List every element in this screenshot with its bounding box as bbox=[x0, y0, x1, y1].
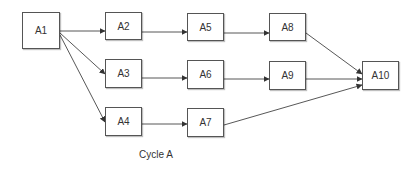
node-a1: A1 bbox=[22, 12, 60, 49]
edge-a1-a3 bbox=[60, 33, 105, 74]
node-a9: A9 bbox=[269, 61, 306, 90]
node-a3: A3 bbox=[105, 59, 142, 88]
edge-a8-a10 bbox=[306, 33, 362, 74]
node-a4: A4 bbox=[105, 107, 142, 136]
node-label: A2 bbox=[117, 21, 129, 32]
node-label: A4 bbox=[117, 116, 129, 127]
node-label: A9 bbox=[281, 70, 293, 81]
node-label: A10 bbox=[372, 70, 390, 81]
diagram-caption: Cycle A bbox=[125, 149, 187, 160]
node-label: A6 bbox=[199, 69, 211, 80]
edge-a7-a10 bbox=[224, 85, 362, 125]
node-a7: A7 bbox=[187, 108, 224, 137]
node-label: A7 bbox=[199, 117, 211, 128]
edge-a1-a4 bbox=[60, 35, 105, 122]
node-a10: A10 bbox=[362, 61, 399, 90]
node-a6: A6 bbox=[187, 60, 224, 89]
node-a2: A2 bbox=[105, 12, 142, 40]
node-label: A5 bbox=[199, 22, 211, 33]
node-a5: A5 bbox=[187, 13, 224, 41]
node-a8: A8 bbox=[269, 13, 306, 41]
node-label: A1 bbox=[35, 25, 47, 36]
node-label: A3 bbox=[117, 68, 129, 79]
node-label: A8 bbox=[281, 22, 293, 33]
